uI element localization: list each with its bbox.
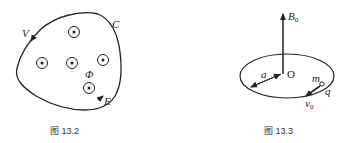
figure-13-3: B0 a O m q v0 <box>240 10 334 111</box>
label-o: O <box>287 68 295 80</box>
label-m: m <box>312 72 320 84</box>
caption-13-3: 图 13.3 <box>264 124 293 137</box>
arrow-v-icon <box>31 38 33 41</box>
label-flux: Φ <box>85 68 94 80</box>
diagram-canvas: C V Φ E B0 a O m q v0 <box>0 0 342 143</box>
charge-particle <box>320 82 324 86</box>
field-dot-icon <box>98 55 109 66</box>
label-v0: v0 <box>305 97 314 111</box>
field-dot-icon <box>67 58 78 69</box>
field-dot-icon <box>69 27 80 38</box>
label-e: E <box>103 95 111 107</box>
arrow-e-icon <box>98 96 103 100</box>
field-dot-icon <box>84 83 95 94</box>
label-c: C <box>112 18 120 30</box>
figure-13-2: C V Φ E <box>16 13 121 110</box>
label-v: V <box>22 27 30 39</box>
label-a: a <box>261 68 267 80</box>
caption-13-2: 图 13.2 <box>50 124 79 137</box>
label-b0: B0 <box>288 10 299 24</box>
field-dot-icon <box>37 58 48 69</box>
label-q: q <box>325 85 331 97</box>
